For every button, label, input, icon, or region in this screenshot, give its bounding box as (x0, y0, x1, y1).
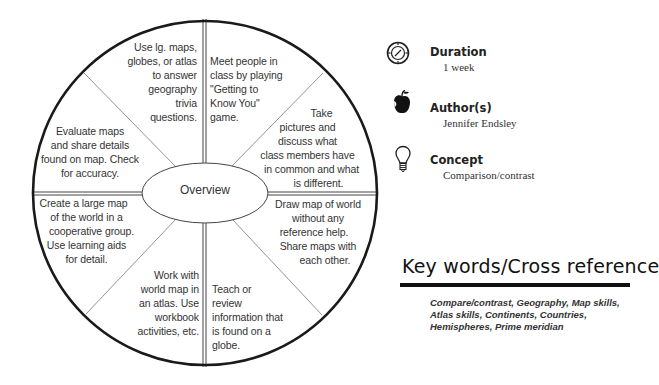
segment-line: reference help. (268, 225, 368, 239)
segment-line: review (212, 296, 302, 310)
segment-line: Draw map of world (268, 197, 368, 211)
keywords-list: Compare/contrast, Geography, Map skills,… (430, 297, 640, 333)
duration-label: Duration (430, 45, 487, 59)
concept-value: Comparison/contrast (443, 169, 535, 181)
segment-line: trivia (110, 96, 197, 110)
duration-value: 1 week (443, 61, 474, 73)
segment-line: pictures and (255, 120, 360, 134)
segment-left-lower: Create a large map of the world in a coo… (34, 196, 139, 266)
concept-label: Concept (430, 153, 483, 167)
segment-line: cooperative group. (34, 224, 139, 238)
segment-line: workbook (110, 310, 199, 324)
segment-line: for accuracy. (40, 166, 140, 180)
segment-line: globes, or atlas (110, 54, 197, 68)
segment-right-lower: Draw map of world without any reference … (268, 197, 368, 267)
segment-line: Teach or (212, 282, 302, 296)
authors-label: Author(s) (430, 101, 492, 115)
segment-line: geography (110, 82, 197, 96)
segment-left-upper: Evaluate maps and share details found on… (40, 124, 140, 180)
segment-line: world map in (110, 282, 199, 296)
segment-line: each other. (268, 253, 368, 267)
segment-line: without any (268, 211, 368, 225)
keywords-heading: Key words/Cross reference (402, 255, 659, 277)
segment-line: Create a large map (34, 196, 139, 210)
segment-line: found on map. Check (40, 152, 140, 166)
segment-line: Use learning aids (34, 238, 139, 252)
segment-line: Share maps with (268, 239, 368, 253)
keywords-line: Compare/contrast, Geography, Map skills, (430, 297, 640, 309)
segment-line: class by playing (210, 68, 300, 82)
keywords-line: Atlas skills, Continents, Countries, (430, 309, 640, 321)
apple-icon (392, 90, 412, 116)
segment-line: for detail. (34, 252, 139, 266)
segment-line: class members have (255, 148, 360, 162)
segment-line: an atlas. Use (110, 296, 199, 310)
segment-line: Evaluate maps (40, 124, 140, 138)
segment-line: "Getting to (210, 82, 300, 96)
compass-clock-icon (386, 40, 410, 66)
keywords-line: Hemispheres, Prime meridian (430, 321, 640, 333)
overview-label: Overview (160, 183, 250, 197)
segment-line: discuss what (255, 134, 360, 148)
segment-top-left: Use lg. maps, globes, or atlas to answer… (110, 40, 197, 124)
lightbulb-icon (395, 145, 411, 175)
segment-line: Take (255, 106, 360, 120)
segment-line: questions. (110, 110, 197, 124)
segment-line: and share details (40, 138, 140, 152)
segment-right-upper: Take pictures and discuss what class mem… (255, 106, 360, 190)
segment-line: Work with (110, 268, 199, 282)
segment-line: Meet people in (210, 54, 300, 68)
segment-line: globe. (212, 338, 302, 352)
authors-value: Jennifer Endsley (443, 117, 517, 129)
segment-bottom-right: Teach or review information that is foun… (212, 282, 302, 352)
keywords-underline (400, 283, 630, 287)
segment-line: of the world in a (34, 210, 139, 224)
segment-line: in common and what (255, 162, 360, 176)
segment-line: to answer (110, 68, 197, 82)
segment-line: Use lg. maps, (110, 40, 197, 54)
segment-line: information that (212, 310, 302, 324)
segment-line: is found on a (212, 324, 302, 338)
segment-line: activities, etc. (110, 324, 199, 338)
segment-line: is different. (255, 176, 360, 190)
segment-bottom-left: Work with world map in an atlas. Use wor… (110, 268, 199, 338)
